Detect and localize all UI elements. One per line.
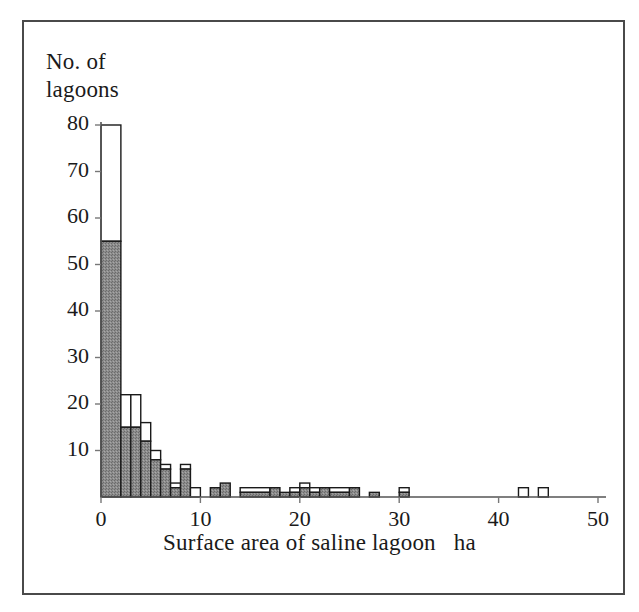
histogram-bar [181, 464, 191, 497]
y-tick-label: 80 [67, 110, 89, 136]
x-axis-label: Surface area of saline lagoonha [0, 530, 639, 556]
histogram-bar [141, 423, 151, 497]
histogram-bar [399, 488, 409, 497]
y-tick-label: 50 [67, 250, 89, 276]
y-tick-label: 20 [67, 389, 89, 415]
bar-shaded-segment [121, 427, 131, 497]
bar-shaded-segment [131, 427, 141, 497]
bar-open-segment [538, 488, 548, 497]
histogram-bar [131, 395, 141, 497]
bar-shaded-segment [181, 469, 191, 497]
histogram-bar [121, 395, 131, 497]
histogram-bar [210, 488, 220, 497]
bar-open-segment [141, 423, 151, 442]
bar-shaded-segment [210, 488, 220, 497]
histogram-bar [350, 488, 360, 497]
bar-shaded-segment [161, 469, 171, 497]
x-tick-label: 20 [260, 506, 340, 532]
histogram-bar [101, 125, 121, 497]
bar-shaded-segment [320, 488, 330, 497]
histogram-bar [310, 488, 320, 497]
histogram-bar [171, 483, 181, 497]
histogram-bar [320, 488, 330, 497]
x-tick-label: 30 [359, 506, 439, 532]
y-tick-label: 10 [67, 436, 89, 462]
bar-open-segment [121, 395, 131, 428]
bar-open-segment [131, 395, 141, 428]
histogram-bar [220, 483, 230, 497]
bar-open-segment [190, 488, 200, 497]
histogram-bar [240, 488, 270, 497]
x-axis-label-text: Surface area of saline lagoon [163, 530, 436, 555]
x-axis-unit: ha [454, 530, 476, 555]
x-tick-label: 0 [61, 506, 141, 532]
bar-shaded-segment [171, 488, 181, 497]
x-tick-label: 50 [558, 506, 638, 532]
histogram-bar [161, 464, 171, 497]
x-tick-label: 40 [459, 506, 539, 532]
bar-shaded-segment [220, 483, 230, 497]
histogram-bar [151, 451, 161, 498]
x-tick-label: 10 [160, 506, 240, 532]
histogram-bar [300, 483, 310, 497]
bar-shaded-segment [151, 460, 161, 497]
histogram-bar [290, 488, 300, 497]
axis-layer [95, 122, 606, 503]
bar-open-segment [518, 488, 528, 497]
bar-open-segment [151, 451, 161, 460]
bar-shaded-segment [300, 488, 310, 497]
y-tick-label: 30 [67, 343, 89, 369]
bar-open-segment [101, 125, 121, 241]
bar-shaded-segment [270, 488, 280, 497]
bar-shaded-segment [141, 441, 151, 497]
histogram-bar [518, 488, 528, 497]
bar-shaded-segment [101, 241, 121, 497]
histogram-bar [330, 488, 350, 497]
bars-layer [101, 125, 548, 497]
histogram-bar [270, 488, 280, 497]
y-tick-label: 70 [67, 157, 89, 183]
histogram-bar [190, 488, 200, 497]
histogram-bar [538, 488, 548, 497]
y-tick-label: 40 [67, 296, 89, 322]
bar-shaded-segment [350, 488, 360, 497]
figure-container: No. oflagoons 1020304050607080 010203040… [0, 0, 639, 612]
y-tick-label: 60 [67, 203, 89, 229]
